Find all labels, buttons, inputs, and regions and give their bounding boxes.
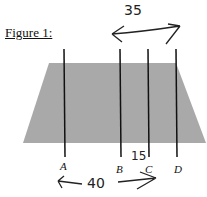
label-a: A <box>60 160 67 172</box>
figure-title: Figure 1: <box>5 25 52 41</box>
label-c: C <box>145 163 152 175</box>
measure-middle: 15 <box>131 149 146 163</box>
top-double-arrow <box>112 24 180 44</box>
label-b: B <box>116 163 123 175</box>
line-a <box>64 49 65 157</box>
line-c <box>148 49 149 157</box>
label-d: D <box>174 163 182 175</box>
measure-top: 35 <box>124 2 142 18</box>
line-b <box>120 49 121 157</box>
measure-bottom: 40 <box>87 175 105 191</box>
trapezoid-shape <box>23 63 206 143</box>
line-d <box>176 49 177 157</box>
bottom-left-arrow <box>58 176 82 188</box>
